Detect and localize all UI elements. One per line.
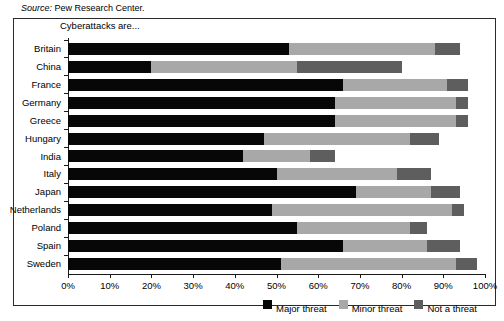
bar-row: Netherlands bbox=[68, 201, 485, 219]
bar-segment-major-threat[interactable] bbox=[68, 150, 243, 162]
stacked-bar[interactable] bbox=[68, 97, 468, 109]
legend-item[interactable]: Minor threat bbox=[339, 300, 403, 314]
legend-label: Minor threat bbox=[352, 303, 403, 314]
y-axis-tick bbox=[64, 183, 68, 184]
bar-row: Hungary bbox=[68, 130, 485, 148]
stacked-bar[interactable] bbox=[68, 168, 431, 180]
bar-segment-major-threat[interactable] bbox=[68, 222, 297, 234]
bar-segment-not-a-threat[interactable] bbox=[456, 115, 469, 127]
x-axis-tick bbox=[277, 274, 278, 278]
bar-segment-minor-threat[interactable] bbox=[243, 150, 310, 162]
x-axis-tick bbox=[68, 274, 69, 278]
x-axis-tick bbox=[402, 274, 403, 278]
chart-legend: Major threatMinor threatNot a threat bbox=[263, 300, 489, 313]
bar-segment-minor-threat[interactable] bbox=[297, 222, 410, 234]
x-axis-tick bbox=[318, 274, 319, 278]
stacked-bar[interactable] bbox=[68, 61, 402, 73]
bar-segment-major-threat[interactable] bbox=[68, 97, 335, 109]
bar-segment-major-threat[interactable] bbox=[68, 61, 151, 73]
bar-segment-major-threat[interactable] bbox=[68, 204, 272, 216]
bar-segment-minor-threat[interactable] bbox=[343, 79, 447, 91]
bar-segment-minor-threat[interactable] bbox=[272, 204, 451, 216]
x-axis-tick-label: 100% bbox=[465, 280, 504, 291]
bar-segment-minor-threat[interactable] bbox=[151, 61, 297, 73]
category-label-germany: Germany bbox=[0, 97, 68, 108]
bar-segment-not-a-threat[interactable] bbox=[452, 204, 465, 216]
legend-item[interactable]: Not a threat bbox=[414, 300, 477, 314]
x-axis-tick bbox=[193, 274, 194, 278]
bar-segment-not-a-threat[interactable] bbox=[447, 79, 468, 91]
bar-segment-major-threat[interactable] bbox=[68, 115, 335, 127]
category-label-spain: Spain bbox=[0, 240, 68, 251]
figure: Source: Pew Research Center. Cyberattack… bbox=[0, 0, 504, 321]
bar-segment-not-a-threat[interactable] bbox=[410, 222, 427, 234]
category-label-greece: Greece bbox=[0, 115, 68, 126]
x-axis-tick bbox=[360, 274, 361, 278]
bar-segment-not-a-threat[interactable] bbox=[410, 133, 439, 145]
stacked-bar[interactable] bbox=[68, 133, 439, 145]
category-label-sweden: Sweden bbox=[0, 258, 68, 269]
bar-row: Germany bbox=[68, 94, 485, 112]
stacked-bar[interactable] bbox=[68, 150, 335, 162]
category-label-netherlands: Netherlands bbox=[0, 204, 68, 215]
y-axis-tick bbox=[64, 93, 68, 94]
bar-segment-minor-threat[interactable] bbox=[335, 97, 456, 109]
x-axis-tick bbox=[235, 274, 236, 278]
bar-segment-not-a-threat[interactable] bbox=[397, 168, 430, 180]
stacked-bar[interactable] bbox=[68, 222, 427, 234]
x-axis-tick-label: 10% bbox=[90, 280, 130, 291]
bar-segment-minor-threat[interactable] bbox=[281, 258, 456, 270]
bar-segment-not-a-threat[interactable] bbox=[435, 43, 460, 55]
x-axis-tick bbox=[110, 274, 111, 278]
stacked-bar[interactable] bbox=[68, 115, 468, 127]
y-axis-tick bbox=[64, 201, 68, 202]
bar-row: Poland bbox=[68, 219, 485, 237]
x-axis-tick-label: 50% bbox=[257, 280, 297, 291]
bar-segment-major-threat[interactable] bbox=[68, 258, 281, 270]
bar-segment-minor-threat[interactable] bbox=[335, 115, 456, 127]
bar-segment-minor-threat[interactable] bbox=[356, 186, 431, 198]
bar-segment-not-a-threat[interactable] bbox=[427, 240, 460, 252]
stacked-bar[interactable] bbox=[68, 79, 468, 91]
bar-segment-not-a-threat[interactable] bbox=[456, 258, 477, 270]
legend-swatch-icon bbox=[414, 300, 423, 309]
stacked-bar[interactable] bbox=[68, 240, 460, 252]
y-axis-tick bbox=[64, 219, 68, 220]
source-text: Pew Research Center. bbox=[52, 3, 145, 13]
stacked-bar[interactable] bbox=[68, 43, 460, 55]
bar-segment-major-threat[interactable] bbox=[68, 79, 343, 91]
bar-segment-major-threat[interactable] bbox=[68, 240, 343, 252]
stacked-bar[interactable] bbox=[68, 204, 464, 216]
bar-row: Sweden bbox=[68, 255, 485, 273]
category-label-italy: Italy bbox=[0, 168, 68, 179]
legend-item[interactable]: Major threat bbox=[263, 300, 327, 314]
category-label-poland: Poland bbox=[0, 222, 68, 233]
bar-segment-major-threat[interactable] bbox=[68, 168, 277, 180]
bar-segment-minor-threat[interactable] bbox=[289, 43, 435, 55]
bar-segment-minor-threat[interactable] bbox=[277, 168, 398, 180]
bar-row: Spain bbox=[68, 237, 485, 255]
y-axis-tick bbox=[64, 40, 68, 41]
bar-segment-major-threat[interactable] bbox=[68, 186, 356, 198]
x-axis-tick bbox=[443, 274, 444, 278]
x-axis-tick bbox=[151, 274, 152, 278]
x-axis-tick-label: 90% bbox=[423, 280, 463, 291]
bar-segment-not-a-threat[interactable] bbox=[431, 186, 460, 198]
bar-segment-major-threat[interactable] bbox=[68, 133, 264, 145]
bar-segment-minor-threat[interactable] bbox=[264, 133, 410, 145]
bar-row: China bbox=[68, 58, 485, 76]
stacked-bar[interactable] bbox=[68, 258, 477, 270]
category-label-hungary: Hungary bbox=[0, 133, 68, 144]
bar-segment-not-a-threat[interactable] bbox=[456, 97, 469, 109]
stacked-bar[interactable] bbox=[68, 186, 460, 198]
bar-segment-minor-threat[interactable] bbox=[343, 240, 426, 252]
category-label-japan: Japan bbox=[0, 186, 68, 197]
bar-segment-major-threat[interactable] bbox=[68, 43, 289, 55]
source-label: Source: bbox=[21, 3, 52, 13]
x-axis-tick-label: 60% bbox=[298, 280, 338, 291]
category-label-india: India bbox=[0, 151, 68, 162]
bar-segment-not-a-threat[interactable] bbox=[310, 150, 335, 162]
x-axis-tick-label: 0% bbox=[48, 280, 88, 291]
bar-segment-not-a-threat[interactable] bbox=[297, 61, 401, 73]
y-axis-tick bbox=[64, 237, 68, 238]
